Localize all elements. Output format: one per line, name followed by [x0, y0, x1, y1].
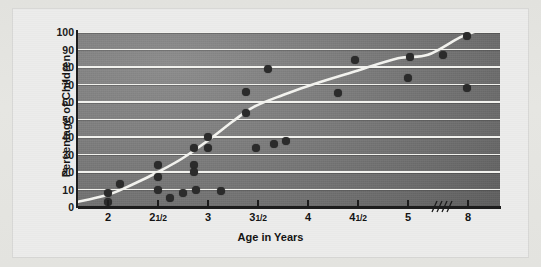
data-point — [104, 189, 112, 197]
y-axis-tick-label: 50 — [50, 115, 74, 125]
data-point — [242, 109, 250, 117]
data-point — [270, 140, 278, 148]
data-point — [204, 144, 212, 152]
y-axis-title-wrapper: Percentage of Children — [30, 50, 46, 190]
y-axis-tick-label: 40 — [50, 132, 74, 142]
x-axis-tick — [407, 200, 409, 206]
x-axis-tick — [467, 200, 469, 206]
data-point — [439, 51, 447, 59]
x-axis-tick-label: 8 — [465, 211, 471, 223]
axis-break-icon — [429, 200, 455, 214]
y-axis-tick-label: 0 — [50, 202, 74, 212]
data-point — [190, 144, 198, 152]
y-axis-tick-label: 100 — [50, 27, 74, 37]
x-axis-tick — [357, 200, 359, 206]
data-point — [282, 137, 290, 145]
data-point — [463, 84, 471, 92]
y-axis-tick-label: 10 — [50, 185, 74, 195]
y-axis-tick-label: 30 — [50, 150, 74, 160]
x-axis-title: Age in Years — [0, 231, 541, 243]
data-point — [404, 74, 412, 82]
x-axis-tick-label: 21/2 — [149, 211, 166, 223]
trend-line — [78, 32, 500, 207]
y-axis-line — [76, 30, 79, 208]
x-axis-tick — [207, 200, 209, 206]
x-axis-tick — [307, 200, 309, 206]
x-axis-tick — [157, 200, 159, 206]
data-point — [406, 53, 414, 61]
y-axis-tick-labels: 1009080706050403020100 — [46, 0, 74, 267]
y-axis-tick-label: 20 — [50, 167, 74, 177]
data-point — [154, 186, 162, 194]
data-point — [463, 32, 471, 40]
data-point — [192, 186, 200, 194]
data-point — [204, 133, 212, 141]
data-point — [190, 168, 198, 176]
x-axis-tick-label: 4 — [305, 211, 311, 223]
x-axis-tick-label: 5 — [405, 211, 411, 223]
plot-area — [78, 32, 500, 207]
x-axis-tick — [107, 200, 109, 206]
data-point — [351, 56, 359, 64]
figure-container: Percentage of Children 10090807060504030… — [0, 0, 541, 267]
data-point — [179, 189, 187, 197]
x-axis-tick-label: 31/2 — [249, 211, 266, 223]
x-axis-tick-label: 3 — [205, 211, 211, 223]
x-axis-tick — [257, 200, 259, 206]
data-point — [154, 161, 162, 169]
x-axis-tick-label: 41/2 — [349, 211, 366, 223]
y-axis-tick-label: 80 — [50, 62, 74, 72]
data-point — [242, 88, 250, 96]
y-axis-tick-label: 60 — [50, 97, 74, 107]
y-axis-tick-label: 70 — [50, 80, 74, 90]
data-point — [252, 144, 260, 152]
data-point — [264, 65, 272, 73]
y-axis-tick-label: 90 — [50, 45, 74, 55]
x-axis-tick-label: 2 — [105, 211, 111, 223]
